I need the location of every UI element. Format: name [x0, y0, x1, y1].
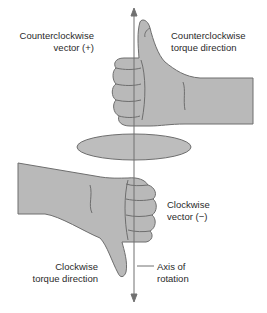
- arrow-down-icon: [131, 294, 137, 302]
- cw-vector-label: Clockwise vector (−): [167, 199, 210, 223]
- thumbs-down-hand: [18, 163, 156, 277]
- axis-label: Axis of rotation: [157, 261, 189, 285]
- ccw-vector-label: Counterclockwise vector (+): [8, 30, 94, 54]
- arrow-up-icon: [131, 8, 137, 16]
- cw-torque-label: Clockwise torque direction: [14, 261, 98, 285]
- ccw-torque-label: Counterclockwise torque direction: [171, 30, 245, 54]
